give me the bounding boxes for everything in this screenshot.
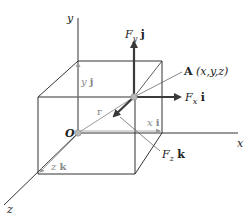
yj-unit: j — [89, 76, 94, 87]
point-a-label: A (x,y,z) — [183, 65, 228, 78]
xi-unit: i — [156, 117, 160, 128]
point-a-name: A — [183, 65, 193, 78]
force-components-diagram: y x z O r y j x i z k A (x,y,z) Fy j Fx … — [0, 0, 251, 215]
fy-unit: j — [140, 28, 145, 41]
fz-sub: z — [169, 154, 175, 163]
box-edge — [38, 61, 78, 97]
fy-sym: F — [124, 28, 133, 41]
position-vector-r — [78, 97, 134, 133]
box-edge — [134, 61, 162, 97]
zk-scalar: z — [50, 161, 57, 172]
z-axis-label: z — [6, 203, 13, 215]
point-a — [131, 94, 137, 100]
z-axis — [4, 133, 78, 205]
fy-sub: y — [132, 34, 138, 43]
r-label: r — [97, 106, 102, 117]
origin-label: O — [65, 127, 75, 140]
point-a-coords: (x,y,z) — [196, 65, 228, 78]
zk-unit: k — [59, 161, 67, 172]
origin-point — [75, 130, 81, 136]
fz-unit: k — [177, 148, 185, 161]
y-axis-label: y — [66, 12, 74, 25]
fz-sym: F — [161, 148, 170, 161]
xi-scalar: x — [147, 117, 153, 128]
box-edge — [135, 133, 162, 174]
xi-label: x i — [147, 117, 160, 128]
fx-sub: x — [193, 97, 198, 106]
zk-label: z k — [50, 161, 67, 172]
fz-label: Fz k — [161, 148, 185, 164]
yj-label: y j — [80, 76, 93, 87]
point-a-leader — [134, 72, 182, 97]
yj-scalar: y — [80, 76, 87, 87]
fx-label: Fx i — [184, 91, 205, 107]
fy-label: Fy j — [124, 28, 145, 44]
fx-unit: i — [201, 91, 205, 104]
fx-sym: F — [184, 91, 193, 104]
x-axis-label: x — [237, 137, 244, 150]
force-fz-arrow — [114, 97, 134, 116]
